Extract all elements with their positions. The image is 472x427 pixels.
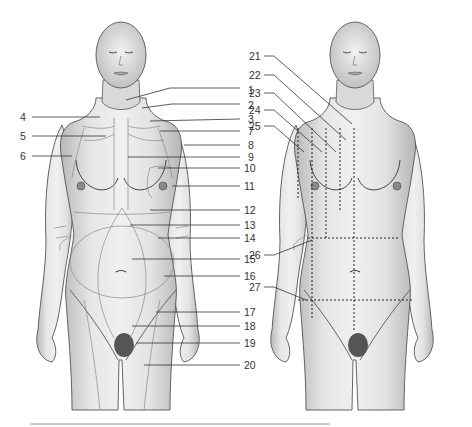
right-figure [271,22,433,410]
anatomy-figure: 1 2 3 4 5 6 7 8 9 10 11 12 13 14 15 16 1… [0,0,472,427]
label-25: 25 [249,120,261,132]
caption-fragment [30,423,330,425]
label-14: 14 [244,232,256,244]
label-19: 19 [244,337,256,349]
label-20: 20 [244,359,256,371]
label-23: 23 [249,87,261,99]
label-27: 27 [249,281,261,293]
label-13: 13 [244,219,256,231]
label-4: 4 [20,111,26,123]
label-8: 8 [248,139,254,151]
label-17: 17 [244,306,256,318]
label-18: 18 [244,320,256,332]
label-24: 24 [249,104,261,116]
label-21: 21 [249,50,261,62]
left-figure: 1 2 3 4 5 6 7 8 9 10 11 12 13 14 15 16 1… [20,22,256,410]
label-11: 11 [244,180,255,192]
label-5: 5 [20,130,26,142]
label-12: 12 [244,204,256,216]
label-6: 6 [20,150,26,162]
label-10: 10 [244,162,256,174]
label-26: 26 [249,249,261,261]
label-22: 22 [249,69,261,81]
